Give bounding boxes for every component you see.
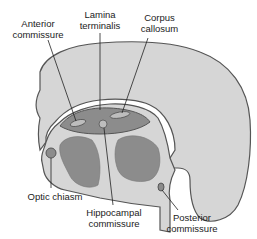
label-lamina-terminalis: Lamina terminalis [75,9,125,31]
posterior-commissure-structure [158,183,164,191]
label-hippocampal-commissure: Hippocampal commissure [83,207,145,229]
label-optic-chiasm: Optic chiasm [20,191,90,202]
hippocampal-commissure-structure [99,120,107,128]
optic-chiasm-structure [46,148,56,158]
label-anterior-commissure: Anterior commissure [8,18,68,40]
label-corpus-callosum: Corpus callosum [137,12,182,34]
brain-commissures-diagram: Anterior commissure Lamina terminalis Co… [0,0,257,239]
label-posterior-commissure: Posterior commissure [162,212,222,234]
lateral-ventricle-right [115,136,160,182]
